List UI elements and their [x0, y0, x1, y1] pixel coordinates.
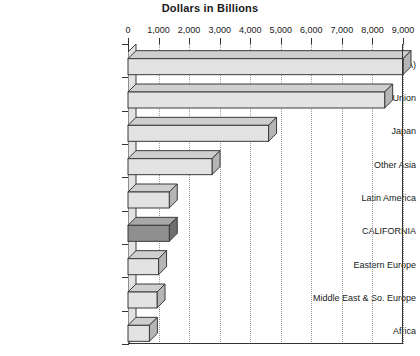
- x-axis-tick-label: 8,000: [361, 25, 384, 35]
- x-axis-tick-label: 7,000: [331, 25, 354, 35]
- x-axis-tick-label: 3,000: [208, 25, 231, 35]
- x-axis-tick-label: 5,000: [270, 25, 293, 35]
- bar-chart: Dollars in Billions 01,0002,0003,0004,00…: [0, 0, 420, 356]
- x-axis-tick-label: 1,000: [147, 25, 170, 35]
- plot-area: [128, 44, 403, 344]
- chart-title: Dollars in Billions: [0, 2, 420, 14]
- x-axis-tick-label: 2,000: [178, 25, 201, 35]
- x-axis-tick-label: 0: [125, 25, 130, 35]
- x-axis-tick-label: 9,000: [392, 25, 415, 35]
- x-axis-tick-label: 4,000: [239, 25, 262, 35]
- x-axis-tick-label: 6,000: [300, 25, 323, 35]
- plot-frame: [128, 44, 403, 344]
